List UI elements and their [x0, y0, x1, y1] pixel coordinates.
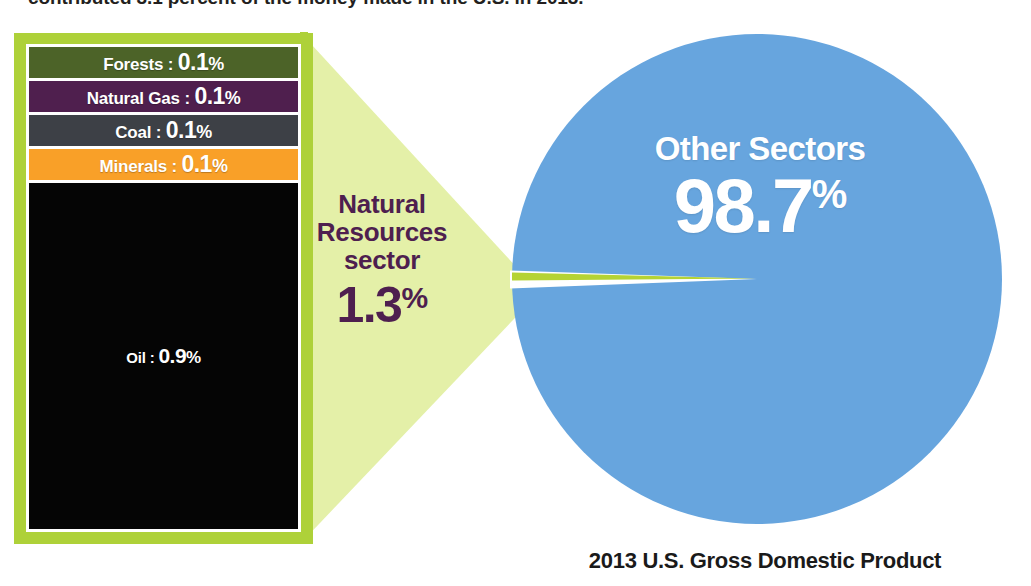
bar-segment-value: 0.1 [166, 117, 196, 143]
bar-segment-coal: Coal : 0.1% [29, 115, 298, 149]
natural-resources-breakdown-panel: Forests : 0.1% Natural Gas : 0.1% Coal :… [14, 33, 313, 544]
pie-caption: 2013 U.S. Gross Domestic Product [505, 548, 1025, 574]
bar-segment-value: 0.1 [181, 151, 211, 177]
bar-segment-percent-sign: % [212, 156, 228, 176]
bar-segment-percent-sign: % [186, 348, 201, 367]
bar-segment-separator: : [163, 55, 178, 74]
bar-segment-label: Natural Gas : 0.1% [87, 83, 241, 110]
bar-segment-name: Natural Gas [87, 89, 180, 108]
callout-value-percent-sign: % [401, 281, 427, 314]
bar-segment-percent-sign: % [196, 122, 212, 142]
bar-segment-oil: Oil : 0.9% [29, 183, 298, 529]
bar-panel-inner-frame: Forests : 0.1% Natural Gas : 0.1% Coal :… [26, 44, 301, 532]
callout-line-1: Natural [312, 190, 452, 218]
callout-label: Natural Resources sector 1.3% [312, 190, 452, 332]
bar-segment-percent-sign: % [225, 88, 241, 108]
bar-segment-separator: : [180, 89, 195, 108]
bar-segment-minerals: Minerals : 0.1% [29, 149, 298, 183]
bar-segment-separator: : [151, 123, 166, 142]
bar-segment-forests: Forests : 0.1% [29, 47, 298, 81]
bar-segment-label: Minerals : 0.1% [100, 151, 228, 178]
bar-segment-name: Coal [115, 123, 151, 142]
headline-text-cropped: contributed 3.1 percent of the money mad… [28, 0, 1008, 11]
bar-segment-name: Forests [103, 55, 163, 74]
callout-line-2: Resources [312, 218, 452, 246]
callout-line-3: sector [312, 246, 452, 274]
bar-segment-value: 0.9 [158, 344, 186, 367]
bar-segment-label: Coal : 0.1% [115, 117, 212, 144]
bar-segment-value: 0.1 [178, 49, 208, 75]
bar-segment-natural-gas: Natural Gas : 0.1% [29, 81, 298, 115]
bar-segment-value: 0.1 [194, 83, 224, 109]
bar-segment-name: Minerals [100, 157, 167, 176]
bar-segment-label: Forests : 0.1% [103, 49, 224, 76]
callout-value-number: 1.3 [336, 277, 401, 333]
gdp-pie-chart [505, 22, 1010, 538]
infographic-canvas: contributed 3.1 percent of the money mad… [0, 0, 1031, 586]
bar-segment-separator: : [146, 349, 159, 366]
bar-segment-percent-sign: % [208, 54, 224, 74]
bar-segment-label: Oil : 0.9% [126, 344, 200, 368]
bar-segment-separator: : [167, 157, 182, 176]
callout-value: 1.3% [312, 278, 452, 332]
bar-segment-name: Oil [126, 349, 145, 366]
